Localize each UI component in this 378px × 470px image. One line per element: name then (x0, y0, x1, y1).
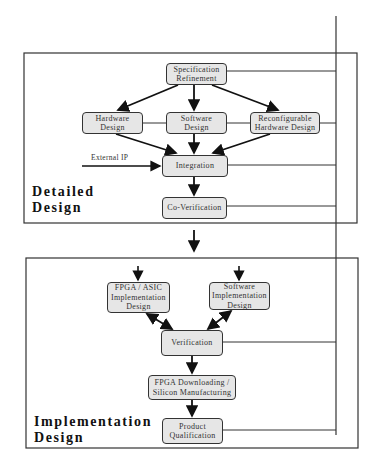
node-fpga-downloading-silicon-manufacturing: FPGA Downloading / Silicon Manufacturing (148, 375, 236, 400)
node-integration: Integration (162, 155, 228, 177)
external-ip-label: External IP (91, 153, 128, 162)
node-product-qualification: Product Qualification (162, 418, 223, 444)
node-fpga-asic-implementation-design: FPGA / ASIC Implementation Design (107, 282, 170, 313)
stage-label-implementation-design: Implementation Design (34, 414, 152, 446)
node-hardware-design: Hardware Design (82, 112, 143, 134)
node-co-verification: Co-Verification (162, 197, 227, 219)
stage-label-detailed-design: Detailed Design (32, 184, 95, 216)
node-reconfigurable-hardware-design: Reconfigurable Hardware Design (250, 112, 320, 134)
node-specification-refinement: Specification Refinement (166, 63, 227, 85)
node-verification: Verification (161, 330, 223, 356)
node-software-implementation-design: Software Implementation Design (209, 282, 270, 310)
node-software-design: Software Design (166, 112, 227, 134)
